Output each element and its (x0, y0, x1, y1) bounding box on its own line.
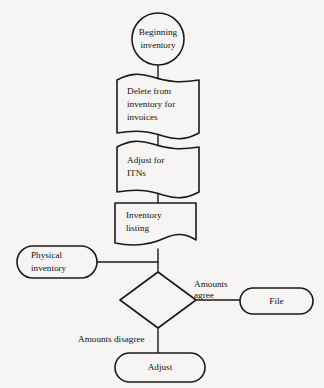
beginning-inventory-shape (132, 13, 184, 65)
delete-from-inventory-label-line3: invoices (127, 112, 158, 122)
node-delete-from-inventory[interactable]: Delete from inventory for invoices (117, 74, 199, 138)
beginning-inventory-label-line1: Beginning (139, 27, 178, 37)
inventory-listing-label-line1: Inventory (126, 210, 162, 220)
flowchart-canvas: Beginning inventory Delete from inventor… (0, 0, 324, 388)
delete-from-inventory-label-line1: Delete from (127, 86, 171, 96)
node-adjust[interactable]: Adjust (115, 353, 205, 382)
node-beginning-inventory[interactable]: Beginning inventory (132, 13, 184, 65)
adjust-for-itns-label-line2: ITNs (127, 168, 146, 178)
decision-shape (120, 272, 196, 328)
node-decision[interactable] (120, 272, 196, 328)
delete-from-inventory-label-line2: inventory for (127, 99, 175, 109)
file-label: File (269, 296, 283, 306)
node-inventory-listing[interactable]: Inventory listing (115, 203, 196, 245)
flowchart-svg: Beginning inventory Delete from inventor… (0, 0, 324, 388)
node-adjust-for-itns[interactable]: Adjust for ITNs (117, 141, 199, 197)
adjust-for-itns-label-line1: Adjust for (127, 155, 165, 165)
adjust-label: Adjust (148, 362, 173, 372)
edge-label-amounts-agree-line2: agree (194, 290, 214, 300)
node-file[interactable]: File (240, 288, 313, 314)
edge-label-amounts-agree-line1: Amounts (194, 279, 228, 289)
node-physical-inventory[interactable]: Physical inventory (17, 246, 97, 278)
physical-inventory-label-line2: inventory (31, 263, 67, 273)
physical-inventory-label-line1: Physical (31, 250, 63, 260)
edge-label-amounts-disagree: Amounts disagree (78, 334, 145, 344)
inventory-listing-label-line2: listing (126, 223, 149, 233)
beginning-inventory-label-line2: inventory (140, 40, 176, 50)
